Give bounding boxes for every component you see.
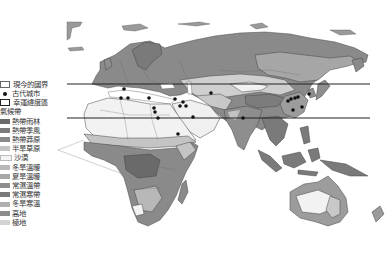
- city-dot-icon: [0, 92, 10, 96]
- climate-swatch-icon: [0, 137, 10, 142]
- climate-swatch-icon: [0, 174, 10, 179]
- legend-label: 半旱草原: [12, 145, 40, 152]
- climate-swatch-icon: [0, 119, 10, 124]
- legend-climate-title: 氣候帶: [0, 108, 80, 117]
- legend-label: 現今的國界: [13, 81, 48, 88]
- legend-item-borders: 現今的國界: [0, 80, 80, 89]
- legend-item-cities: 古代城市: [0, 89, 80, 98]
- legend-label: 沙漠: [14, 154, 28, 161]
- climate-swatch-icon: [0, 202, 10, 207]
- legend-label: 冬旱寒溫: [12, 200, 40, 207]
- climate-swatch-icon: [0, 183, 10, 188]
- legend-label: 夏旱溫暖: [12, 173, 40, 180]
- legend-climate-item: 常濕寒帶: [0, 190, 80, 199]
- legend-climate-item: 半旱草原: [0, 144, 80, 153]
- legend-label: 常濕寒帶: [12, 191, 40, 198]
- legend-climate-item: 常濕溫帶: [0, 181, 80, 190]
- legend-label: 極地: [12, 219, 26, 226]
- legend-label: 熱帶莽原: [12, 136, 40, 143]
- legend-climate-item: 極地: [0, 218, 80, 227]
- legend-label: 熱帶雨林: [12, 118, 40, 125]
- legend-climate-item: 高地: [0, 209, 80, 218]
- climate-swatch-icon: [0, 211, 10, 216]
- legend-item-lucky-zone: 幸運緯度區: [0, 98, 80, 107]
- climate-swatch-icon: [0, 165, 10, 170]
- legend-climate-item: 熱帶雨林: [0, 117, 80, 126]
- climate-swatch-icon: [0, 220, 10, 225]
- legend-climate-item: 夏旱溫暖: [0, 172, 80, 181]
- legend-climate-item: 冬旱溫暖: [0, 163, 80, 172]
- legend-label: 熱帶季風: [12, 127, 40, 134]
- legend-label: 古代城市: [12, 90, 40, 97]
- legend-climate-item: 沙漠: [0, 154, 80, 163]
- legend-label: 高地: [12, 210, 26, 217]
- legend-climate-item: 熱帶季風: [0, 126, 80, 135]
- se-asia: [258, 116, 368, 176]
- legend-label: 冬旱溫暖: [12, 164, 40, 171]
- map-legend: 現今的國界 古代城市 幸運緯度區 氣候帶 熱帶雨林 熱帶季風 熱帶莽原 半旱草原…: [0, 80, 80, 227]
- climate-swatch-icon: [0, 128, 10, 133]
- border-swatch-icon: [0, 81, 10, 88]
- legend-climate-item: 熱帶莽原: [0, 135, 80, 144]
- climate-swatch-icon: [0, 192, 10, 197]
- climate-swatch-icon: [0, 146, 10, 151]
- legend-label: 幸運緯度區: [13, 99, 48, 106]
- zone-swatch-icon: [0, 99, 10, 106]
- climate-swatch-icon: [0, 155, 12, 161]
- legend-label: 常濕溫帶: [12, 182, 40, 189]
- legend-climate-item: 冬旱寒溫: [0, 199, 80, 208]
- australia: [290, 176, 348, 226]
